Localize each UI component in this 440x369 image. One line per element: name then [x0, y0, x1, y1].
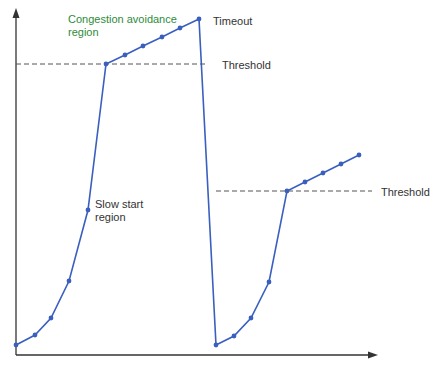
- data-point: [303, 180, 308, 185]
- data-point: [14, 343, 19, 348]
- data-point: [178, 26, 183, 31]
- data-point: [249, 316, 254, 321]
- data-point: [197, 17, 202, 22]
- data-point: [123, 53, 128, 58]
- data-point: [321, 171, 326, 176]
- threshold-label-1: Threshold: [222, 59, 271, 72]
- data-point: [33, 333, 38, 338]
- slow-start-line1: Slow start: [95, 198, 143, 211]
- data-point: [67, 279, 72, 284]
- data-point: [339, 162, 344, 167]
- data-point: [285, 189, 290, 194]
- threshold-label-2: Threshold: [381, 186, 430, 199]
- data-point: [49, 316, 54, 321]
- congestion-avoidance-label: Congestion avoidance region: [68, 13, 177, 39]
- timeout-label: Timeout: [213, 15, 252, 28]
- data-point: [357, 153, 362, 158]
- tcp-congestion-diagram: [0, 0, 440, 369]
- data-point: [86, 208, 91, 213]
- data-point: [141, 44, 146, 49]
- y-axis-arrow-icon: [13, 8, 20, 18]
- data-point: [104, 62, 109, 67]
- slow-start-line2: region: [95, 211, 143, 224]
- data-point: [232, 334, 237, 339]
- congestion-avoidance-line1: Congestion avoidance: [68, 13, 177, 26]
- data-point: [214, 343, 219, 348]
- congestion-window-2-line: [216, 155, 359, 345]
- slow-start-label: Slow start region: [95, 198, 143, 224]
- congestion-avoidance-line2: region: [68, 26, 177, 39]
- data-point: [267, 280, 272, 285]
- x-axis-arrow-icon: [368, 352, 378, 359]
- series-layer: [14, 17, 362, 348]
- congestion-window-1-line: [16, 19, 216, 345]
